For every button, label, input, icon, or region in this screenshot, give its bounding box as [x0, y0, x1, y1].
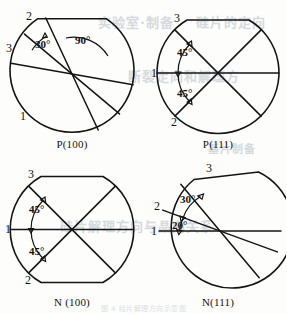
- angle-label-30: 30°: [180, 193, 195, 205]
- scanned-figure-page: 实验室·制备 硅片的定向 断裂定向和解理方 基片制备 硅片解理方向与晶向关系 2…: [0, 0, 287, 314]
- panel-caption-p100: P(100): [4, 138, 140, 150]
- figure-footnote: 图 4 硅片解理方向示意图: [0, 303, 287, 313]
- index-label-2: 2: [154, 199, 160, 213]
- wafer-svg-n100: 3 1 2 45° 45°: [4, 160, 140, 294]
- wafer-diagram-p100: 2 3 1 30° 90° P(100): [4, 4, 140, 152]
- index-label-1: 1: [20, 109, 26, 123]
- angle-label-45-lower: 45°: [29, 245, 44, 257]
- wafer-svg-p100: 2 3 1 30° 90°: [4, 4, 140, 136]
- index-label-1: 1: [151, 66, 157, 80]
- angle-arrow-30-top: [198, 194, 204, 199]
- angle-label-20: 20°: [172, 219, 187, 231]
- index-label-2: 2: [25, 273, 31, 287]
- wafer-diagram-n100: 3 1 2 45° 45° N (100): [4, 160, 140, 310]
- angle-label-45-lower: 45°: [177, 87, 192, 99]
- angle-label-45-upper: 45°: [177, 46, 192, 58]
- wafer-svg-p111: 3 1 2 45° 45°: [150, 4, 286, 136]
- index-label-2: 2: [171, 115, 177, 129]
- wafer-diagram-n111: 3 2 1 30° 20° N(111): [150, 160, 286, 310]
- angle-label-30: 30°: [35, 38, 50, 50]
- angle-label-90: 90°: [75, 34, 90, 46]
- index-label-3: 3: [206, 161, 212, 175]
- wafer-diagram-p111: 3 1 2 45° 45° P(111): [150, 4, 286, 152]
- wafer-outline: [171, 172, 286, 288]
- index-label-3: 3: [6, 41, 12, 55]
- index-label-1: 1: [5, 222, 11, 236]
- angle-label-45-upper: 45°: [29, 203, 44, 215]
- panel-caption-p111: P(111): [150, 138, 286, 150]
- index-label-3: 3: [174, 11, 180, 25]
- index-label-2: 2: [26, 9, 32, 23]
- index-label-3: 3: [28, 167, 34, 181]
- wafer-svg-n111: 3 2 1 30° 20°: [150, 160, 286, 294]
- index-label-1: 1: [151, 224, 157, 238]
